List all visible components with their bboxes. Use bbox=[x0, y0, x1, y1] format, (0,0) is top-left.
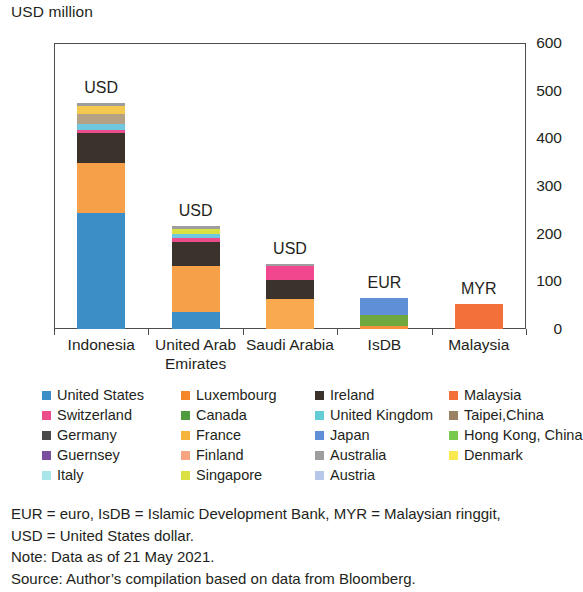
legend-item-canada[interactable]: Canada bbox=[181, 407, 315, 424]
legend-item-guernsey[interactable]: Guernsey bbox=[42, 447, 181, 464]
bar-stack bbox=[77, 103, 125, 329]
legend-item-label: United States bbox=[57, 387, 144, 404]
legend-item-france[interactable]: France bbox=[181, 427, 315, 444]
footnotes-block: EUR = euro, IsDB = Islamic Development B… bbox=[11, 503, 556, 589]
x-category-label-line: Malaysia bbox=[432, 335, 526, 354]
legend-item-label: Austria bbox=[330, 467, 375, 484]
legend-item-label: Denmark bbox=[464, 447, 523, 464]
legend-item-label: Taipei,China bbox=[464, 407, 544, 424]
legend-row: GermanyFranceJapanHong Kong, China bbox=[42, 427, 547, 447]
legend-item-italy[interactable]: Italy bbox=[42, 467, 181, 484]
bar-group-malaysia[interactable]: MYR bbox=[455, 43, 503, 329]
legend-item-austria[interactable]: Austria bbox=[315, 467, 449, 484]
legend-swatch-icon bbox=[449, 391, 458, 400]
bar-segment bbox=[172, 242, 220, 266]
legend-item-label: Germany bbox=[57, 427, 117, 444]
bar-segment bbox=[172, 266, 220, 312]
legend-swatch-icon bbox=[449, 411, 458, 420]
footnote-line: Source: Author’s compilation based on da… bbox=[11, 568, 556, 590]
bar-segment bbox=[266, 299, 314, 329]
bar-segment bbox=[266, 280, 314, 299]
x-category-label-line: Indonesia bbox=[54, 335, 148, 354]
legend-item-malaysia[interactable]: Malaysia bbox=[449, 387, 547, 404]
legend-item-ireland[interactable]: Ireland bbox=[315, 387, 449, 404]
bar-segment bbox=[360, 298, 408, 315]
legend-item-label: Canada bbox=[196, 407, 247, 424]
x-category-label-line: Saudi Arabia bbox=[243, 335, 337, 354]
bar-segment bbox=[77, 213, 125, 329]
legend-item-luxembourg[interactable]: Luxembourg bbox=[181, 387, 315, 404]
bar-segment bbox=[266, 266, 314, 280]
legend-item-label: Switzerland bbox=[57, 407, 132, 424]
legend-item-taipei-china[interactable]: Taipei,China bbox=[449, 407, 547, 424]
x-category-label: Indonesia bbox=[54, 335, 148, 354]
legend-item-germany[interactable]: Germany bbox=[42, 427, 181, 444]
bar-group-indonesia[interactable]: USD bbox=[77, 43, 125, 329]
bar-segment bbox=[360, 315, 408, 326]
legend-swatch-icon bbox=[42, 411, 51, 420]
legend-swatch-icon bbox=[315, 431, 324, 440]
legend-item-label: Guernsey bbox=[57, 447, 120, 464]
legend-swatch-icon bbox=[315, 411, 324, 420]
legend-row: GuernseyFinlandAustraliaDenmark bbox=[42, 447, 547, 467]
bar-segment bbox=[77, 163, 125, 214]
legend-item-denmark[interactable]: Denmark bbox=[449, 447, 547, 464]
legend-item-label: Malaysia bbox=[464, 387, 521, 404]
bar-segment bbox=[360, 326, 408, 329]
legend-swatch-icon bbox=[315, 471, 324, 480]
legend-item-label: Luxembourg bbox=[196, 387, 277, 404]
legend-item-switzerland[interactable]: Switzerland bbox=[42, 407, 181, 424]
bar-currency-label: USD bbox=[84, 79, 118, 97]
legend-item-singapore[interactable]: Singapore bbox=[181, 467, 315, 484]
bar-group-saudi-arabia[interactable]: USD bbox=[266, 43, 314, 329]
bar-stack bbox=[266, 264, 314, 329]
legend-swatch-icon bbox=[42, 471, 51, 480]
x-category-label-line: Emirates bbox=[148, 354, 242, 373]
legend-item-finland[interactable]: Finland bbox=[181, 447, 315, 464]
y-axis-unit-title: USD million bbox=[11, 3, 93, 21]
legend-item-label: Australia bbox=[330, 447, 386, 464]
legend-item-australia[interactable]: Australia bbox=[315, 447, 449, 464]
legend-swatch-icon bbox=[449, 431, 458, 440]
chart-legend: United StatesLuxembourgIrelandMalaysiaSw… bbox=[42, 387, 547, 487]
legend-item-label: Singapore bbox=[196, 467, 262, 484]
legend-item-label: Japan bbox=[330, 427, 370, 444]
bar-segment bbox=[77, 114, 125, 124]
legend-swatch-icon bbox=[181, 391, 190, 400]
legend-row: ItalySingaporeAustria bbox=[42, 467, 547, 487]
footnote-line: USD = United States dollar. bbox=[11, 525, 556, 547]
bar-segment bbox=[172, 312, 220, 329]
footnote-line: EUR = euro, IsDB = Islamic Development B… bbox=[11, 503, 556, 525]
legend-item-united-kingdom[interactable]: United Kingdom bbox=[315, 407, 449, 424]
bar-segment bbox=[455, 304, 503, 329]
x-category-label: Saudi Arabia bbox=[243, 335, 337, 354]
legend-swatch-icon bbox=[42, 391, 51, 400]
legend-item-label: France bbox=[196, 427, 241, 444]
footnote-line: Note: Data as of 21 May 2021. bbox=[11, 546, 556, 568]
bar-segment bbox=[77, 133, 125, 163]
bar-currency-label: MYR bbox=[461, 280, 497, 298]
x-category-label-line: United Arab bbox=[148, 335, 242, 354]
legend-swatch-icon bbox=[181, 411, 190, 420]
x-category-label: IsDB bbox=[337, 335, 431, 354]
x-tick-mark bbox=[526, 329, 527, 335]
legend-row: SwitzerlandCanadaUnited KingdomTaipei,Ch… bbox=[42, 407, 547, 427]
bar-stack bbox=[172, 226, 220, 329]
bar-group-isdb[interactable]: EUR bbox=[360, 43, 408, 329]
legend-item-hong-kong-china[interactable]: Hong Kong, China bbox=[449, 427, 547, 444]
legend-swatch-icon bbox=[181, 451, 190, 460]
bar-currency-label: USD bbox=[179, 202, 213, 220]
legend-swatch-icon bbox=[181, 471, 190, 480]
legend-item-label: Hong Kong, China bbox=[464, 427, 583, 444]
bar-stack bbox=[455, 304, 503, 329]
x-category-label: United ArabEmirates bbox=[148, 335, 242, 373]
legend-swatch-icon bbox=[449, 451, 458, 460]
x-category-label: Malaysia bbox=[432, 335, 526, 354]
bar-group-united-arab-emirates[interactable]: USD bbox=[172, 43, 220, 329]
legend-item-japan[interactable]: Japan bbox=[315, 427, 449, 444]
x-category-label-line: IsDB bbox=[337, 335, 431, 354]
bar-currency-label: USD bbox=[273, 240, 307, 258]
legend-item-united-states[interactable]: United States bbox=[42, 387, 181, 404]
legend-swatch-icon bbox=[42, 431, 51, 440]
legend-row: United StatesLuxembourgIrelandMalaysia bbox=[42, 387, 547, 407]
